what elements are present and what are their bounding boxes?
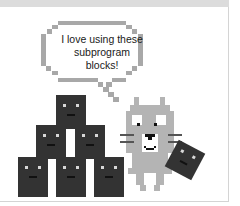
illustration xyxy=(0,0,240,206)
speech-bubble-text: I love using these subprogram blocks! xyxy=(52,33,152,72)
speech-line-1: I love using these xyxy=(52,33,152,46)
speech-line-2: subprogram xyxy=(52,46,152,59)
speech-line-3: blocks! xyxy=(52,59,152,72)
block-pyramid xyxy=(18,95,124,197)
